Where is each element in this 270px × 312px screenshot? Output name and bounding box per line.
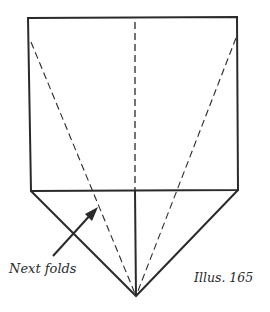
paper-rectangle (28, 17, 238, 191)
right-dashed-fold-line (136, 38, 236, 296)
triangle-center-line (135, 191, 136, 296)
next-folds-label: Next folds (9, 262, 77, 275)
left-dashed-fold-line (31, 42, 136, 296)
illustration-number-label: Illus. 165 (194, 272, 253, 285)
